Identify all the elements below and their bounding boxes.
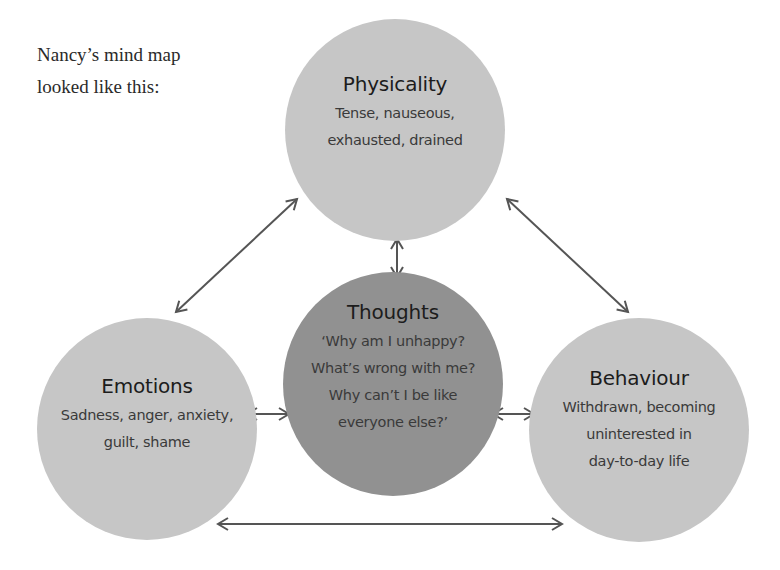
node-line: ‘Why am I unhappy? — [311, 328, 475, 355]
node-thoughts: Thoughts ‘Why am I unhappy? What’s wrong… — [283, 272, 503, 496]
node-line: everyone else?’ — [311, 409, 475, 436]
node-line: day-to-day life — [562, 448, 715, 475]
node-line: Why can’t I be like — [311, 382, 475, 409]
node-line: What’s wrong with me? — [311, 355, 475, 382]
node-description: Withdrawn, becoming uninterested in day-… — [562, 394, 715, 475]
node-line: Withdrawn, becoming — [562, 394, 715, 421]
intro-line-1: Nancy’s mind map — [37, 39, 181, 71]
node-description: ‘Why am I unhappy? What’s wrong with me?… — [311, 328, 475, 436]
node-title: Behaviour — [589, 366, 689, 390]
node-description: Sadness, anger, anxiety, guilt, shame — [61, 402, 233, 456]
node-line: Sadness, anger, anxiety, — [61, 402, 233, 429]
node-physicality: Physicality Tense, nauseous, exhausted, … — [285, 19, 505, 241]
node-line: Tense, nauseous, — [327, 100, 462, 127]
intro-line-2: looked like this: — [37, 71, 181, 103]
node-line: exhausted, drained — [327, 127, 462, 154]
node-title: Emotions — [101, 374, 193, 398]
node-emotions: Emotions Sadness, anger, anxiety, guilt,… — [37, 318, 257, 540]
node-description: Tense, nauseous, exhausted, drained — [327, 100, 462, 154]
arrow-physicality-emotions — [176, 199, 297, 312]
node-behaviour: Behaviour Withdrawn, becoming uninterest… — [529, 318, 749, 542]
node-title: Thoughts — [347, 300, 439, 324]
node-title: Physicality — [343, 72, 447, 96]
node-line: uninterested in — [562, 421, 715, 448]
node-line: guilt, shame — [61, 429, 233, 456]
arrow-physicality-behaviour — [507, 199, 628, 312]
intro-text: Nancy’s mind map looked like this: — [37, 39, 181, 103]
